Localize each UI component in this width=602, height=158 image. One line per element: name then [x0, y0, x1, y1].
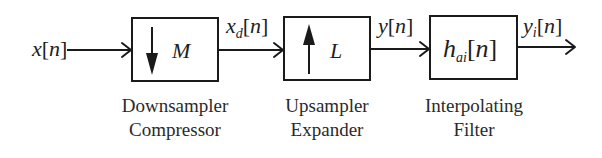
svg-text:Downsampler: Downsampler [122, 95, 229, 116]
interpolating-filter-block: hai[n] [430, 16, 517, 79]
svg-text:yi[n]: yi[n] [521, 13, 562, 40]
block-diagram: x[n] M xd[n] L y[n] [0, 0, 602, 158]
downsample-factor: M [171, 38, 192, 63]
svg-text:Expander: Expander [291, 119, 364, 140]
upsample-factor: L [329, 38, 342, 63]
svg-text:Compressor: Compressor [129, 119, 222, 140]
filter-impulse-response: hai[n] [443, 34, 497, 65]
svg-text:Interpolating: Interpolating [425, 95, 524, 116]
downsampler-output-label: xd[n] [225, 13, 268, 41]
upsampler-output-label: y[n] [376, 13, 413, 38]
svg-text:Filter: Filter [453, 119, 495, 140]
downsampler-output-arrow [218, 43, 283, 57]
upsampler-output-arrow [370, 42, 429, 56]
downsampler-block: M [132, 18, 218, 81]
interpolating-filter-caption: Interpolating Filter [425, 95, 524, 140]
output-arrow [517, 40, 575, 54]
svg-text:y[n]: y[n] [376, 13, 413, 38]
upsampler-block: L [284, 17, 370, 80]
input-signal-label: x[n] [31, 36, 67, 61]
upsampler-caption: Upsampler Expander [285, 95, 369, 140]
input-arrow [67, 43, 131, 57]
downsampler-caption: Downsampler Compressor [122, 95, 229, 140]
svg-text:xd[n]: xd[n] [225, 13, 268, 41]
svg-text:Upsampler: Upsampler [285, 95, 369, 116]
output-signal-label: yi[n] [521, 13, 562, 40]
svg-text:x[n]: x[n] [31, 36, 67, 61]
